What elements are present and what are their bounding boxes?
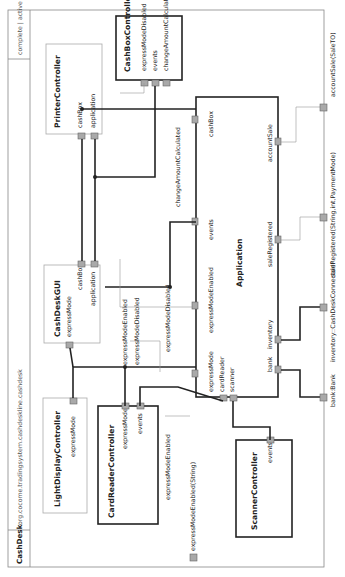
external-port-label: accountSale(SaleTO) — [329, 32, 336, 97]
port-label: application — [89, 94, 97, 128]
application-title: Application — [235, 239, 244, 287]
connector-label: expressModeEnabled — [121, 299, 129, 365]
port-icon — [192, 116, 198, 123]
port-icon — [70, 398, 77, 404]
port-label: expressMode — [65, 296, 73, 337]
port-icon — [275, 138, 281, 145]
package-name: org.cocome.tradingsystem.cashdeskline.ca… — [16, 369, 24, 525]
port-label: scanner — [228, 367, 235, 392]
port-label: expressModeDisabled — [140, 3, 148, 71]
external-port-label: bank:Bank — [329, 374, 336, 407]
port-label: events — [136, 413, 143, 434]
port-icon — [192, 302, 198, 309]
connector-label: expressModeDisabled — [133, 297, 141, 365]
connector-label: changeAmountCalculated — [174, 127, 182, 207]
port-label: saleRegistered — [266, 221, 274, 267]
connector-label: expressModeDisabled — [164, 284, 172, 352]
port-label: events — [266, 442, 273, 463]
port-icon — [163, 80, 170, 86]
port-label: cashBox — [207, 111, 214, 137]
card-reader-title: CardReaderController — [107, 425, 116, 518]
port-icon — [78, 261, 85, 267]
scanner-title: ScannerController — [250, 452, 259, 530]
application-component[interactable]: Application expressMode expressModeEnabl… — [192, 97, 281, 401]
port-label: cardReader — [218, 356, 225, 392]
port-icon — [66, 342, 73, 348]
status-label: complete | active — [16, 1, 24, 55]
port-icon — [78, 133, 85, 139]
port-label: events — [207, 219, 214, 240]
port-label: bank — [266, 356, 273, 372]
port-icon — [152, 80, 159, 86]
port-label: expressMode — [121, 408, 129, 449]
external-port-label: saleRegistered(String,int,PaymentMode) — [329, 152, 337, 277]
port-icon — [275, 366, 281, 373]
external-port-label: expressModeEnabled(String) — [189, 462, 197, 551]
printer-controller[interactable]: PrinterController cashBox application — [46, 44, 102, 139]
port-label: expressMode — [69, 416, 77, 457]
cashdesk-gui[interactable]: CashDeskGUI expressMode cashBox applicat… — [44, 261, 100, 348]
port-icon — [275, 336, 281, 343]
connector-label: expressModeEnabled — [164, 434, 172, 500]
port-icon — [91, 133, 98, 139]
port-icon — [275, 236, 281, 243]
port-icon — [192, 370, 198, 377]
card-reader-controller[interactable]: CardReaderController expressMode events — [98, 403, 158, 524]
cashdesk-gui-title: CashDeskGUI — [53, 280, 62, 337]
port-label: application — [89, 272, 97, 306]
scanner-controller[interactable]: ScannerController events — [236, 437, 292, 537]
cashbox-title: CashBoxController — [123, 0, 132, 72]
port-icon — [141, 80, 148, 86]
port-label: inventory — [266, 319, 274, 349]
port-icon — [91, 261, 98, 267]
component-diagram: CashDesk org.cocome.tradingsystem.cashde… — [0, 0, 345, 577]
printer-title: PrinterController — [53, 55, 62, 128]
port-label: accountSale — [266, 124, 273, 162]
light-display-controller[interactable]: LightDisplayController expressMode — [43, 398, 87, 513]
port-label: cashBox — [76, 102, 83, 128]
port-icon — [230, 395, 237, 401]
component-title: CashDesk — [15, 524, 24, 564]
port-label: changeAmountCalculated — [162, 0, 170, 71]
port-label: expressModeEnabled — [207, 267, 215, 333]
port-label: events — [151, 50, 158, 71]
light-display-title: LightDisplayController — [53, 411, 62, 507]
port-label: cashBox — [76, 264, 83, 290]
port-label: expressMode — [207, 351, 215, 392]
